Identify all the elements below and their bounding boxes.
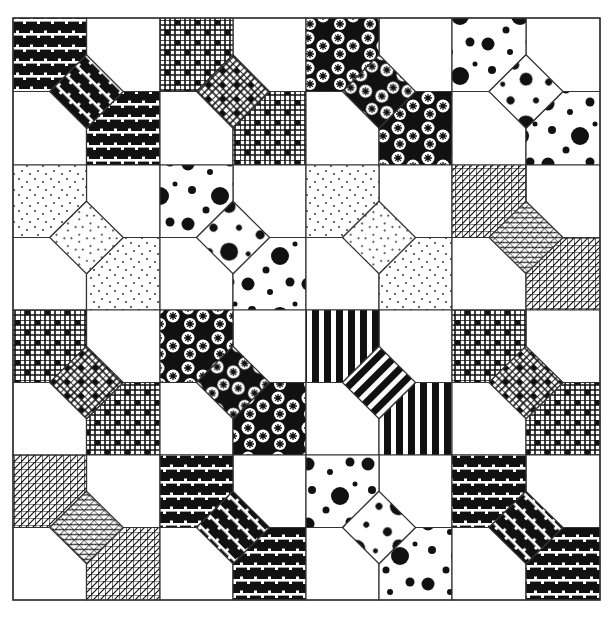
quilt-block-brick-stripes [160, 455, 306, 600]
quilt-block-check-grid [160, 18, 306, 165]
quilt-block-big-dots [452, 18, 600, 165]
quilt-block-star-circles [160, 310, 306, 455]
quilt-block-stipple [13, 165, 160, 310]
quilt-block-big-dots [306, 455, 452, 600]
quilt-block-crosshatch [452, 165, 600, 310]
quilt-blocks [13, 18, 600, 600]
quilt-block-brick-stripes [13, 18, 160, 165]
bow-tie-quilt [0, 0, 612, 621]
quilt-block-vertical-stripes [306, 310, 452, 455]
quilt-block-brick-stripes [452, 455, 600, 600]
quilt-block-stipple [306, 165, 452, 310]
quilt-block-big-dots [160, 165, 306, 310]
quilt-block-crosshatch [13, 455, 160, 600]
quilt-block-check-grid [13, 310, 160, 455]
quilt-block-star-circles [306, 18, 452, 165]
quilt-block-check-grid [452, 310, 600, 455]
